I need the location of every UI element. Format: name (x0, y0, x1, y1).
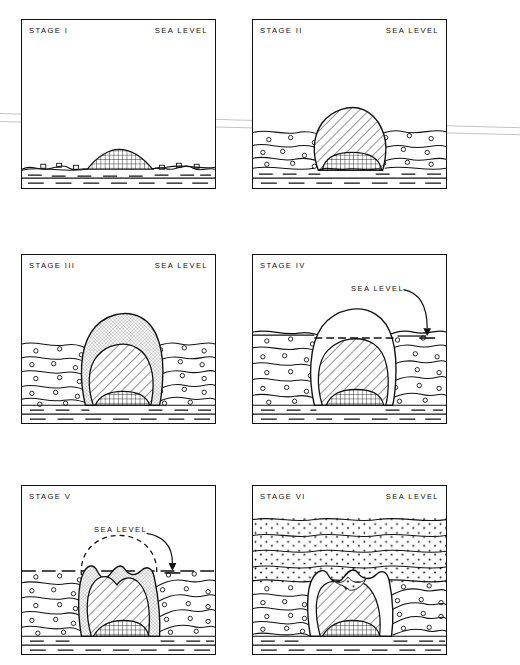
sediment-bedding-right (389, 589, 446, 635)
stage-label: STAGE IV (260, 261, 306, 270)
panel-stage-3-artwork (22, 255, 215, 423)
panel-stage-6: STAGE VI SEA LEVEL (252, 485, 447, 655)
panel-stage-1: STAGE I SEA LEVEL (21, 19, 216, 189)
sea-level-arrow-head (168, 563, 176, 571)
panel-stage-4: STAGE IV SEA LEVEL (252, 254, 447, 424)
stage-label: STAGE III (29, 261, 75, 270)
stage-label: STAGE VI (260, 492, 306, 501)
sea-level-label: SEA LEVEL (155, 26, 208, 35)
sea-level-label: SEA LEVEL (351, 284, 404, 293)
panel-stage-2-artwork (253, 20, 446, 188)
panel-stage-5-artwork (22, 486, 215, 654)
sea-level-label: SEA LEVEL (386, 26, 439, 35)
deep-bedding-lines (253, 636, 446, 645)
sea-level-leader-line (403, 290, 427, 329)
dash-texture-deep (28, 175, 211, 183)
panel-stage-6-artwork (253, 486, 446, 654)
basement-mound-checker (87, 149, 152, 169)
stage-label: STAGE V (29, 492, 71, 501)
deep-bedding-lines (22, 636, 215, 645)
panel-stage-4-artwork (253, 255, 446, 423)
stage-label: STAGE II (260, 26, 303, 35)
panel-stage-2: STAGE II SEA LEVEL (252, 19, 447, 189)
sea-level-leader-line (147, 533, 173, 563)
sea-level-label: SEA LEVEL (94, 525, 147, 534)
sea-level-label: SEA LEVEL (386, 492, 439, 501)
panel-stage-3: STAGE III SEA LEVEL (21, 254, 216, 424)
sea-level-label: SEA LEVEL (155, 261, 208, 270)
panel-stage-1-artwork (22, 20, 215, 188)
panel-stage-5: STAGE V SEA LEVEL (21, 485, 216, 655)
stage-label: STAGE I (29, 26, 68, 35)
